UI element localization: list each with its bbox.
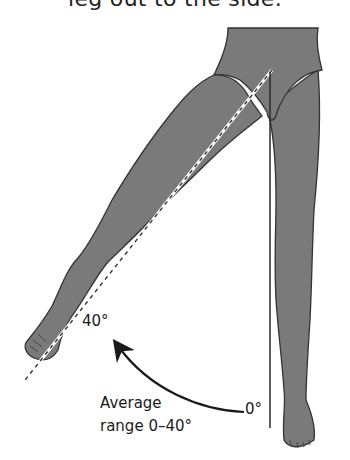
range-label: range 0–40° xyxy=(100,417,192,435)
angle-40-label: 40° xyxy=(82,312,109,330)
raised-leg xyxy=(25,75,262,360)
angle-0-label: 0° xyxy=(245,400,262,418)
standing-leg xyxy=(268,70,320,447)
average-label: Average xyxy=(100,394,162,412)
hip-abduction-illustration xyxy=(0,0,350,460)
